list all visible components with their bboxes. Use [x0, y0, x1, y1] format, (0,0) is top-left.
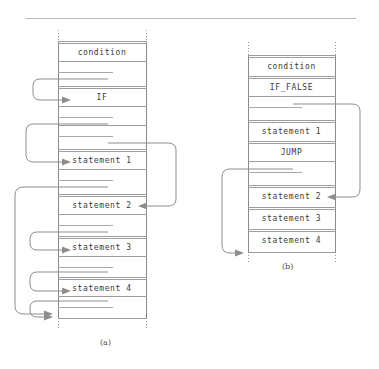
caption-panel-b: (b)	[282, 262, 293, 271]
arrowhead-a-3	[138, 203, 147, 210]
figure-canvas: conditionIFstatement 1statement 2stateme…	[0, 0, 379, 369]
arrow-a-3	[108, 143, 176, 206]
control-flow-arrows	[0, 0, 379, 369]
arrowhead-b-1	[327, 194, 336, 201]
arrow-b-1	[293, 104, 360, 197]
arrow-a-7	[30, 301, 108, 317]
arrowhead-a-5	[62, 247, 71, 254]
arrow-b-2	[222, 169, 293, 253]
arrowhead-a-6	[62, 288, 71, 295]
arrow-a-6	[30, 272, 108, 291]
arrow-a-2	[26, 124, 108, 162]
caption-panel-a: (a)	[100, 338, 111, 347]
arrow-a-1	[33, 79, 108, 100]
arrowhead-b-2	[235, 250, 244, 257]
arrowhead-a-2	[62, 159, 71, 166]
arrowhead-a-1	[62, 97, 71, 104]
arrow-a-5	[30, 232, 108, 250]
